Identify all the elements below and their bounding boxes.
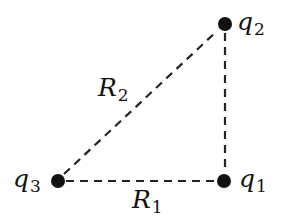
label-q2-subscript: 2	[254, 19, 265, 39]
label-q2-symbol: q	[237, 7, 253, 36]
charge-dot-q2	[218, 17, 232, 31]
label-r1: R1	[132, 187, 163, 216]
label-q2: q2	[237, 9, 265, 38]
label-r2-subscript: 2	[118, 85, 129, 105]
label-r2: R2	[98, 75, 129, 104]
label-q3: q3	[13, 166, 41, 195]
label-q1-symbol: q	[239, 164, 255, 193]
label-q1: q1	[239, 166, 267, 195]
label-r1-subscript: 1	[152, 197, 163, 217]
label-q3-symbol: q	[13, 164, 29, 193]
label-r1-symbol: R	[132, 185, 151, 214]
label-q1-subscript: 1	[256, 176, 267, 196]
label-q3-subscript: 3	[30, 176, 41, 196]
charge-diagram: q2 q1 q3 R2 R1	[0, 0, 282, 223]
line-r2-q3-q2	[64, 31, 217, 174]
charge-dot-q3	[51, 174, 65, 188]
label-r2-symbol: R	[98, 73, 117, 102]
charge-dot-q1	[217, 174, 231, 188]
